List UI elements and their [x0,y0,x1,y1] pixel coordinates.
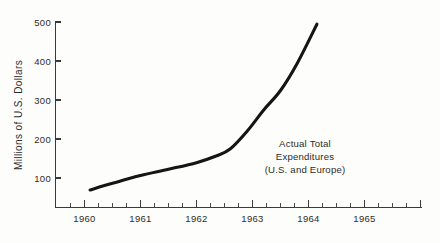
line-chart: Millions of U.S. Dollars 500 400 300 200… [0,0,440,243]
x-tick-label: 1964 [297,213,319,224]
y-axis-tick-labels: 500 400 300 200 100 [34,17,51,184]
y-tick-label: 400 [34,56,51,67]
chart-container: Millions of U.S. Dollars 500 400 300 200… [0,0,440,243]
series-annotation: Actual Total Expenditures (U.S. and Euro… [265,138,346,175]
x-tick-label: 1961 [129,213,151,224]
y-tick-label: 200 [34,134,51,145]
annotation-line-1: Actual Total [279,138,331,149]
annotation-line-2: Expenditures [276,151,334,162]
y-tick-label: 500 [34,17,51,28]
y-axis-title: Millions of U.S. Dollars [13,60,24,170]
x-axis-minor-ticks [71,203,407,208]
y-tick-label: 300 [34,95,51,106]
y-tick-label: 100 [34,173,51,184]
annotation-line-3: (U.S. and Europe) [265,164,346,175]
x-tick-label: 1960 [73,213,95,224]
x-tick-label: 1963 [241,213,263,224]
y-axis-ticks [56,22,62,178]
x-axis-major-ticks [85,200,421,208]
x-axis-tick-labels: 1960 1961 1962 1963 1964 1965 [73,213,375,224]
x-tick-label: 1962 [185,213,207,224]
x-tick-label: 1965 [353,213,375,224]
